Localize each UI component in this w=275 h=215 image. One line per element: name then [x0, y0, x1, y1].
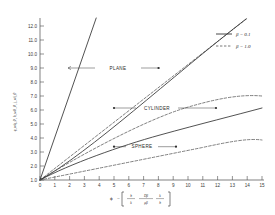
- x-axis-label: ϕ = h k Dβ μβ k h: [110, 192, 170, 206]
- y-tick-label: 8.0: [31, 80, 38, 85]
- data-marker: [215, 107, 217, 109]
- y-tick-label: 9.0: [31, 66, 38, 71]
- x-tick-label: 10: [185, 183, 191, 188]
- x-tick-label: 8: [157, 183, 160, 188]
- x-label-den-1: k: [130, 201, 132, 205]
- x-tick-label: 3: [83, 183, 86, 188]
- series-cylinder-beta-0-1: [40, 19, 246, 180]
- x-tick-label: 5: [113, 183, 116, 188]
- legend-label: β = 0.1: [235, 32, 251, 37]
- y-tick-label: 1.0: [31, 178, 38, 183]
- x-axis-tick-labels: 0 1 2 3 4 5 6 7 8 9 10 11 12 13 14 15: [39, 183, 265, 188]
- y-axis-label: q_w/q_0 , h_w/h_0 , j_w/j_0: [13, 92, 18, 131]
- chart-figure: 1.0 2.0 3.0 4.0 5.0 6.0 7.0 8.0 9.0 10.0…: [0, 0, 275, 215]
- y-tick-label: 11.0: [28, 38, 37, 43]
- x-tick-label: 14: [245, 183, 251, 188]
- y-tick-label: 4.0: [31, 136, 38, 141]
- x-axis-label-phi: ϕ: [110, 196, 113, 201]
- data-marker: [175, 146, 177, 148]
- x-tick-label: 9: [172, 183, 175, 188]
- y-tick-label: 10.0: [28, 52, 37, 57]
- y-tick-label: 7.0: [31, 94, 38, 99]
- annotation-label: PLANE: [110, 66, 127, 71]
- x-tick-label: 6: [128, 183, 131, 188]
- x-label-num-3: k: [159, 194, 161, 198]
- annotation-label: CYLINDER: [144, 106, 170, 111]
- y-tick-label: 12.0: [28, 24, 37, 29]
- x-axis-label-eq: =: [117, 196, 120, 201]
- data-marker: [113, 107, 115, 109]
- series-plane-beta-0-1: [40, 18, 96, 180]
- annotation-sphere: SPHERE: [113, 144, 177, 149]
- y-tick-label: 3.0: [31, 150, 38, 155]
- x-tick-label: 1: [54, 183, 57, 188]
- x-tick-label: 13: [230, 183, 236, 188]
- x-tick-label: 15: [259, 183, 265, 188]
- y-tick-label: 6.0: [31, 108, 38, 113]
- legend: β = 0.1 β = 1.0: [216, 32, 251, 49]
- x-tick-label: 2: [68, 183, 71, 188]
- x-tick-label: 11: [200, 183, 205, 188]
- x-tick-label: 7: [142, 183, 145, 188]
- annotation-cylinder: CYLINDER: [113, 106, 217, 111]
- x-axis-ticks: [40, 176, 262, 180]
- legend-label: β = 1.0: [235, 44, 251, 49]
- x-label-den-2: μβ: [144, 201, 148, 205]
- data-marker: [157, 67, 159, 69]
- y-axis-tick-labels: 1.0 2.0 3.0 4.0 5.0 6.0 7.0 8.0 9.0 10.0…: [28, 24, 37, 183]
- y-tick-label: 5.0: [31, 122, 38, 127]
- y-tick-label: 2.0: [31, 164, 38, 169]
- x-label-num-2: Dβ: [143, 194, 148, 198]
- annotation-label: SPHERE: [132, 144, 153, 149]
- annotation-plane: PLANE: [68, 66, 160, 71]
- y-axis-ticks: [40, 26, 44, 180]
- x-tick-label: 0: [39, 183, 42, 188]
- axes-frame: [40, 18, 264, 180]
- chart-svg: 1.0 2.0 3.0 4.0 5.0 6.0 7.0 8.0 9.0 10.0…: [0, 0, 275, 215]
- x-label-num-1: h: [130, 194, 132, 198]
- svg-text:q_w/q_0 , h_w/h_0 , j_w/j_0: q_w/q_0 , h_w/h_0 , j_w/j_0: [13, 92, 18, 131]
- x-label-den-3: h: [159, 201, 161, 205]
- x-tick-label: 12: [215, 183, 221, 188]
- data-marker: [113, 146, 115, 148]
- x-tick-label: 4: [98, 183, 101, 188]
